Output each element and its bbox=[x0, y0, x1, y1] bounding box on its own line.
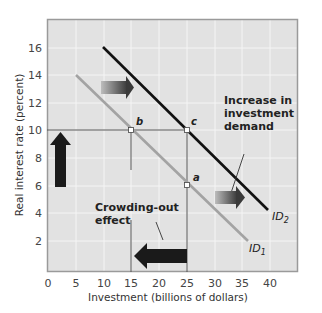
point-c-label: c bbox=[191, 116, 197, 127]
svg-text:0: 0 bbox=[45, 277, 52, 290]
x-axis-label: Investment (billions of dollars) bbox=[88, 291, 248, 303]
svg-text:14: 14 bbox=[28, 69, 42, 82]
svg-text:12: 12 bbox=[28, 97, 42, 110]
investment-demand-chart: b c a ID2 ID1 Increase in investment dem… bbox=[0, 0, 322, 313]
svg-text:demand: demand bbox=[224, 120, 274, 133]
svg-text:10: 10 bbox=[28, 124, 42, 137]
svg-text:Increase in: Increase in bbox=[224, 94, 292, 107]
y-axis-ticks: 2 4 6 8 10 12 14 16 bbox=[28, 42, 42, 248]
svg-text:25: 25 bbox=[180, 277, 194, 290]
svg-text:20: 20 bbox=[152, 277, 166, 290]
svg-text:40: 40 bbox=[263, 277, 277, 290]
svg-text:15: 15 bbox=[124, 277, 138, 290]
point-b-label: b bbox=[136, 116, 143, 127]
svg-text:5: 5 bbox=[73, 277, 80, 290]
svg-text:investment: investment bbox=[224, 107, 294, 120]
point-a-marker bbox=[185, 183, 190, 188]
svg-text:Crowding-out: Crowding-out bbox=[95, 201, 179, 214]
x-axis-ticks: 0 5 10 15 20 25 30 35 40 bbox=[45, 277, 278, 290]
y-axis-label: Real interest rate (percent) bbox=[13, 74, 25, 217]
svg-text:8: 8 bbox=[35, 152, 42, 165]
svg-text:30: 30 bbox=[208, 277, 222, 290]
plot-area bbox=[47, 19, 298, 272]
svg-text:4: 4 bbox=[35, 207, 42, 220]
svg-text:2: 2 bbox=[35, 235, 42, 248]
svg-text:16: 16 bbox=[28, 42, 42, 55]
point-a-label: a bbox=[193, 172, 200, 183]
svg-text:10: 10 bbox=[97, 277, 111, 290]
point-c-marker bbox=[185, 128, 190, 133]
point-b-marker bbox=[129, 128, 134, 133]
svg-text:effect: effect bbox=[95, 214, 131, 227]
svg-text:6: 6 bbox=[35, 180, 42, 193]
svg-text:35: 35 bbox=[235, 277, 249, 290]
